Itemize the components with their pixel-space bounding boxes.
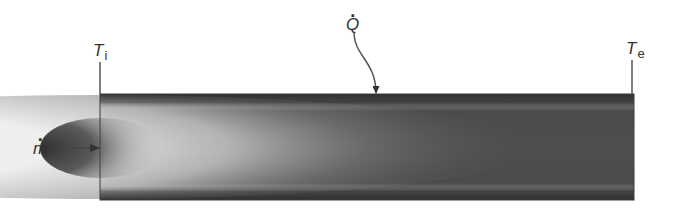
inlet-temperature-symbol: T	[93, 41, 103, 60]
heat-rate-label: Q	[346, 16, 359, 33]
pipe-flow-diagram	[0, 0, 675, 209]
exit-temperature-subscript: e	[637, 46, 644, 61]
diagram-canvas: Ti Te Q m	[0, 0, 675, 209]
inlet-temperature-subscript: i	[104, 48, 107, 63]
inlet-temperature-label: Ti	[93, 42, 107, 59]
exit-temperature-symbol: T	[626, 39, 636, 58]
pipe-temperature-field	[0, 94, 634, 200]
heat-rate-arrow	[354, 33, 376, 93]
heat-rate-symbol: Q	[346, 16, 359, 33]
mass-flow-symbol: m	[33, 140, 47, 157]
mass-flow-label: m	[33, 140, 47, 157]
exit-temperature-label: Te	[626, 40, 645, 57]
